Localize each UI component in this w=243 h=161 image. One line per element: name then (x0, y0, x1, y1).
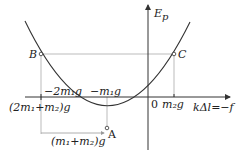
tick-label-2m1-m2: (2m₁+m₂)g (9, 101, 71, 114)
point-c-label: C (178, 48, 187, 61)
x-axis-label: kΔl=−f (193, 101, 236, 114)
y-axis-label: Ep (153, 7, 169, 22)
span-label-m1-m2: (m₁+m₂)g (51, 135, 106, 148)
point-b-label: B (28, 48, 37, 61)
tick-label-m2g: m₂g (162, 98, 184, 111)
point-b (39, 52, 43, 56)
energy-diagram: Ep B C A 0 −2m₁g −m₁g m₂g kΔl=−f (2m₁+m₂… (0, 0, 243, 161)
tick-label-neg-2m1g: −2m₁g (44, 85, 82, 98)
origin-label: 0 (151, 98, 158, 111)
point-c (172, 52, 176, 56)
tick-label-neg-m1g: −m₁g (90, 85, 121, 98)
point-a-label: A (107, 128, 117, 141)
